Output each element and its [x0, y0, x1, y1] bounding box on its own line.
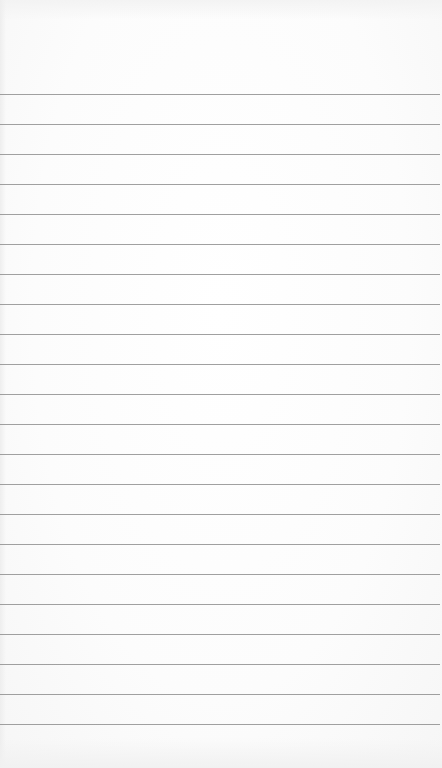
ruled-line [0, 334, 440, 335]
ruled-line [0, 694, 440, 695]
ruled-line [0, 544, 440, 545]
ruled-line [0, 364, 440, 365]
ruled-line [0, 274, 440, 275]
ruled-line [0, 94, 440, 95]
ruled-line [0, 184, 440, 185]
notepad-page [0, 0, 442, 768]
ruled-line [0, 304, 440, 305]
top-edge-shading [0, 0, 442, 20]
ruled-line [0, 394, 440, 395]
ruled-line [0, 574, 440, 575]
ruled-line [0, 454, 440, 455]
bottom-edge-shading [0, 738, 442, 768]
ruled-line [0, 604, 440, 605]
ruled-line [0, 484, 440, 485]
ruled-line [0, 214, 440, 215]
ruled-line [0, 244, 440, 245]
ruled-line [0, 514, 440, 515]
ruled-line [0, 724, 440, 725]
ruled-line [0, 124, 440, 125]
left-edge-shading [0, 0, 6, 768]
ruled-line [0, 154, 440, 155]
ruled-line [0, 424, 440, 425]
ruled-line [0, 664, 440, 665]
ruled-line [0, 634, 440, 635]
